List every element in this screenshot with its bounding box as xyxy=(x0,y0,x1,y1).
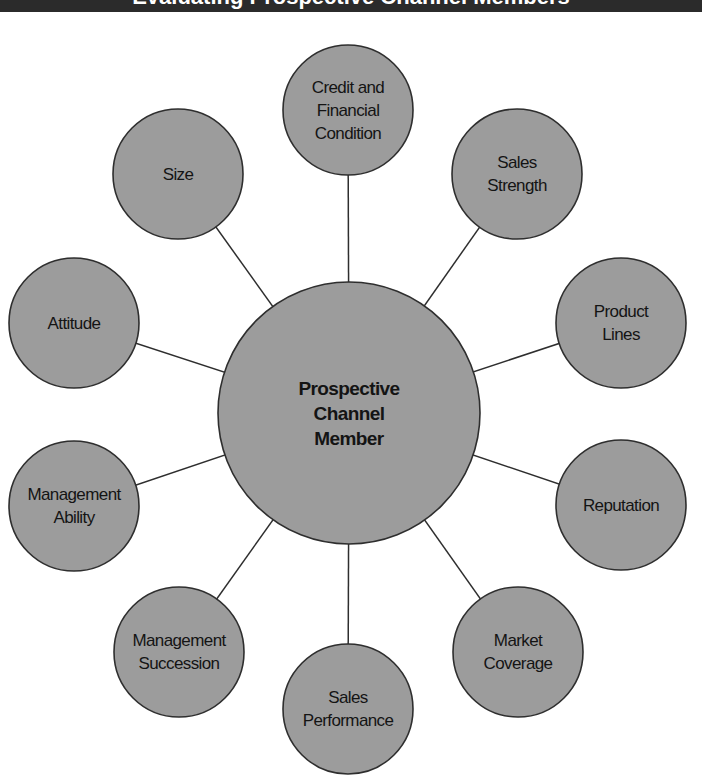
node-label-sales-performance: Sales Performance xyxy=(303,686,394,732)
center-node-label: Prospective Channel Member xyxy=(298,376,399,451)
node-label-reputation: Reputation xyxy=(583,494,659,517)
node-label-product-lines: Product Lines xyxy=(594,300,648,346)
node-label-credit: Credit and Financial Condition xyxy=(312,76,384,145)
node-label-size: Size xyxy=(163,163,194,186)
node-label-management-succession: Management Succession xyxy=(132,629,225,675)
node-label-market-coverage: Market Coverage xyxy=(484,629,553,675)
node-label-attitude: Attitude xyxy=(48,312,101,335)
node-label-management-ability: Management Ability xyxy=(27,483,120,529)
node-label-sales-strength: Sales Strength xyxy=(487,151,546,197)
